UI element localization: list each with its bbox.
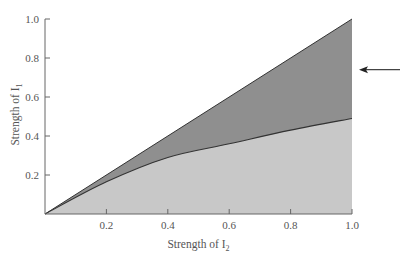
arrow-left-icon bbox=[359, 66, 400, 73]
x-tick-label: 0.6 bbox=[222, 219, 236, 231]
x-tick-label: 0.8 bbox=[284, 219, 298, 231]
x-tick-label: 0.4 bbox=[161, 219, 175, 231]
x-axis-label: Strength of I2 bbox=[167, 238, 229, 253]
y-tick-label: 1.0 bbox=[25, 13, 39, 25]
y-tick-label: 0.2 bbox=[25, 169, 39, 181]
x-tick-label: 1.0 bbox=[345, 219, 359, 231]
x-tick-label: 0.2 bbox=[100, 219, 114, 231]
y-axis-label: Strength of I1 bbox=[9, 83, 24, 145]
y-tick-label: 0.4 bbox=[25, 130, 39, 142]
chart: 0.20.40.60.81.00.20.40.60.81.0Strength o… bbox=[0, 0, 413, 255]
y-tick-label: 0.6 bbox=[25, 91, 39, 103]
y-tick-label: 0.8 bbox=[25, 52, 39, 64]
